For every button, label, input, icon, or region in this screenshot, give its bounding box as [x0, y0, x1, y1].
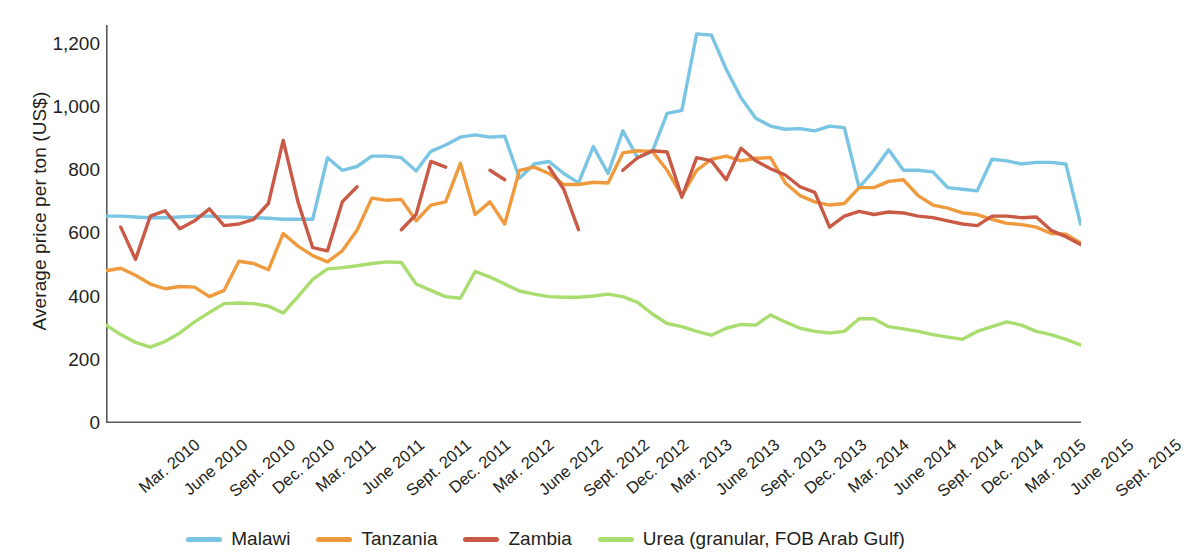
legend-swatch-icon	[463, 537, 499, 542]
legend-swatch-icon	[598, 537, 634, 542]
legend-label: Tanzania	[361, 528, 437, 550]
legend-item[interactable]: Urea (granular, FOB Arab Gulf)	[598, 528, 905, 550]
legend-label: Malawi	[231, 528, 290, 550]
legend-item[interactable]: Malawi	[186, 528, 290, 550]
legend-label: Zambia	[508, 528, 571, 550]
chart-legend: MalawiTanzaniaZambiaUrea (granular, FOB …	[0, 528, 1091, 550]
legend-swatch-icon	[316, 537, 352, 542]
legend-label: Urea (granular, FOB Arab Gulf)	[643, 528, 905, 550]
legend-swatch-icon	[186, 537, 222, 542]
legend-item[interactable]: Tanzania	[316, 528, 437, 550]
legend-item[interactable]: Zambia	[463, 528, 571, 550]
